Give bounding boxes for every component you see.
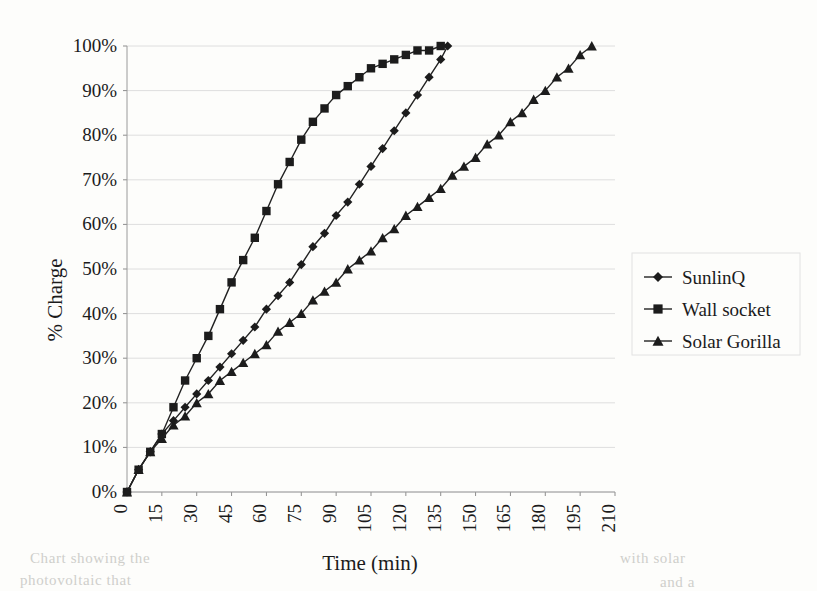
x-tick-label: 210 [598, 504, 619, 533]
data-point-square [297, 135, 305, 143]
data-point-square [355, 73, 363, 81]
x-axis-title: Time (min) [322, 551, 417, 575]
data-point-diamond [413, 90, 422, 99]
data-point-square [320, 104, 328, 112]
legend-item-wall-socket[interactable]: Wall socket [644, 299, 771, 320]
y-tick-label: 10% [82, 436, 117, 457]
data-point-square [402, 51, 410, 59]
y-tick-label: 0% [92, 481, 118, 502]
gridlines [127, 46, 615, 492]
data-point-square [425, 46, 433, 54]
data-point-square [332, 91, 340, 99]
data-point-diamond [366, 162, 375, 171]
y-tick-label: 100% [73, 35, 118, 56]
data-point-square [378, 60, 386, 68]
y-tick-label: 40% [82, 303, 117, 324]
x-tick-label: 90 [319, 504, 340, 523]
x-tick-label: 165 [493, 504, 514, 532]
y-tick-label: 20% [82, 392, 117, 413]
legend-label: SunlinQ [682, 267, 746, 288]
x-tick-label: 105 [354, 504, 375, 533]
legend-item-solar-gorilla[interactable]: Solar Gorilla [644, 331, 781, 352]
x-tick-label: 120 [389, 504, 410, 533]
data-point-diamond [390, 126, 399, 135]
x-tick-label: 0 [110, 504, 131, 514]
data-point-diamond [378, 144, 387, 153]
x-tick-label: 30 [180, 504, 201, 523]
x-tick-label: 180 [528, 504, 549, 533]
data-point-square [653, 304, 662, 313]
x-tick-label: 75 [284, 504, 305, 523]
y-tick-label: 70% [82, 169, 117, 190]
x-tick-label: 135 [424, 504, 445, 533]
x-tick-label: 150 [459, 504, 480, 533]
legend-label: Wall socket [682, 299, 771, 320]
chart-canvas: 0%10%20%30%40%50%60%70%80%90%100% 015304… [0, 0, 817, 591]
y-tick-label: 80% [82, 124, 117, 145]
y-tick-label: 30% [82, 347, 117, 368]
x-tick-label: 60 [249, 504, 270, 523]
chart-legend: SunlinQWall socketSolar Gorilla [632, 253, 800, 355]
data-point-square [193, 354, 201, 362]
y-tick-label: 90% [82, 80, 117, 101]
legend-item-sunlinq[interactable]: SunlinQ [644, 267, 746, 288]
data-point-square [262, 207, 270, 215]
data-point-square [437, 42, 445, 50]
data-point-square [367, 64, 375, 72]
data-point-diamond [297, 260, 306, 269]
y-axis-ticks [123, 46, 127, 492]
data-point-square [239, 256, 247, 264]
data-point-diamond [436, 55, 445, 64]
legend-label: Solar Gorilla [682, 331, 781, 352]
data-point-square [216, 305, 224, 313]
data-point-square [169, 403, 177, 411]
x-axis-tick-labels: 0153045607590105120135150165180195210 [110, 504, 619, 533]
data-point-square [390, 55, 398, 63]
data-point-square [251, 234, 259, 242]
x-tick-label: 195 [563, 504, 584, 533]
data-point-diamond [653, 272, 663, 282]
x-tick-label: 15 [145, 504, 166, 523]
data-point-diamond [401, 108, 410, 117]
x-tick-label: 45 [215, 504, 236, 523]
data-point-square [344, 82, 352, 90]
data-point-square [181, 376, 189, 384]
charge-time-line-chart: 0%10%20%30%40%50%60%70%80%90%100% 015304… [0, 0, 817, 591]
data-point-square [285, 158, 293, 166]
data-point-square [413, 46, 421, 54]
y-axis-tick-labels: 0%10%20%30%40%50%60%70%80%90%100% [73, 35, 118, 502]
x-axis-ticks [127, 492, 615, 496]
data-point-square [309, 118, 317, 126]
data-point-square [274, 180, 282, 188]
data-point-diamond [424, 73, 433, 82]
y-tick-label: 60% [82, 213, 117, 234]
y-axis-title: % Charge [43, 258, 67, 341]
data-point-square [227, 278, 235, 286]
data-point-square [204, 332, 212, 340]
data-point-diamond [355, 180, 364, 189]
y-tick-label: 50% [82, 258, 117, 279]
